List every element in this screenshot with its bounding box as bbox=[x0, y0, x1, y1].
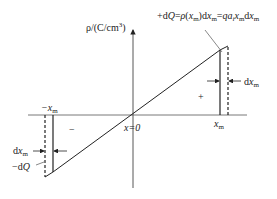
pos-xm-label: xm bbox=[213, 118, 224, 131]
left-dq-label: −dQ bbox=[12, 161, 31, 172]
origin-label: x=0 bbox=[123, 122, 140, 133]
dq-leader bbox=[36, 162, 44, 165]
right-top-cap bbox=[220, 46, 228, 50]
top-annotation: +dQ=ρ(xm)dxm=qaixmdxm bbox=[157, 10, 260, 23]
density-line bbox=[53, 50, 220, 172]
plus-sign: + bbox=[198, 91, 204, 102]
left-dx-label: dxm bbox=[13, 145, 28, 158]
left-bottom-cap bbox=[45, 172, 53, 177]
minus-sign: − bbox=[69, 124, 75, 135]
y-axis-label: ρ/(C/cm3) bbox=[86, 21, 126, 34]
charge-density-diagram: ρ/(C/cm3) +dQ=ρ(xm)dxm=qaixmdxm dxm + − … bbox=[0, 0, 277, 199]
annotation-leader bbox=[205, 30, 222, 52]
right-dx-label: dxm bbox=[244, 76, 259, 89]
neg-xm-label: −xm bbox=[41, 102, 58, 115]
